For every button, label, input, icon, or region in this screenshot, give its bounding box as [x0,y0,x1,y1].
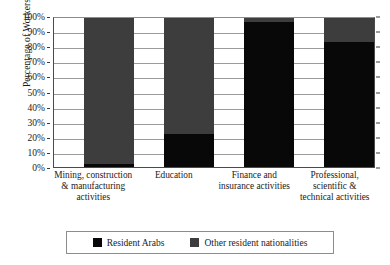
black-swatch-icon [93,238,102,247]
y-tick-label: 10% [28,148,45,158]
y-tick-label: 80% [28,42,45,52]
x-axis-line [54,167,374,168]
right-tick-mark [376,62,380,63]
plot-area [53,17,375,168]
chart-legend: Resident ArabsOther resident nationaliti… [66,231,334,254]
y-tick-label: 100% [23,12,45,22]
legend-item[interactable]: Resident Arabs [93,238,165,248]
y-tick-label: 20% [28,133,45,143]
right-tick-mark [376,32,380,33]
y-tick-mark [47,123,50,124]
bar-segment-other-resident-nationalities[interactable] [84,18,134,164]
stacked-bar[interactable] [164,18,214,168]
gray-swatch-icon [190,238,199,247]
bar-segment-resident-arabs[interactable] [164,134,214,169]
right-tick-mark [376,77,380,78]
y-tick-mark [47,47,50,48]
x-axis-category-labels: Mining, construction & manufacturing act… [53,170,375,204]
y-tick-mark [47,168,50,169]
right-tick-mark [376,47,380,48]
y-tick-mark [47,138,50,139]
bar-slot [294,18,374,168]
y-axis-ticks: 100%90%80%70%60%50%40%30%20%10%0% [8,17,48,168]
bar-segment-other-resident-nationalities[interactable] [324,18,374,42]
stacked-bar[interactable] [324,18,374,168]
right-tick-mark [376,137,380,138]
right-tick-mark [376,17,380,18]
right-tick-mark [376,122,380,123]
right-tick-mark [376,168,380,169]
stacked-bar[interactable] [84,18,134,168]
legend-label: Other resident nationalities [204,238,307,248]
y-tick-mark [47,93,50,94]
y-tick-label: 60% [28,72,45,82]
legend-label: Resident Arabs [107,238,165,248]
x-axis-category-label: Education [134,170,215,204]
y-tick-label: 50% [28,88,45,98]
bar-segment-resident-arabs[interactable] [244,22,294,168]
stacked-bar[interactable] [244,18,294,168]
stacked-bar-chart: Percentage of Workers 100%90%80%70%60%50… [0,0,390,265]
right-tick-mark [376,107,380,108]
bar-group [54,18,374,168]
x-axis-category-label: Finance and insurance activities [214,170,295,204]
y-tick-mark [47,153,50,154]
bar-segment-other-resident-nationalities[interactable] [164,18,214,134]
y-tick-mark [47,62,50,63]
y-tick-label: 0% [32,163,45,173]
bar-slot [134,18,214,168]
right-tick-mark [376,92,380,93]
right-tick-mark [376,152,380,153]
y-tick-label: 90% [28,27,45,37]
bar-slot [54,18,134,168]
bar-slot [214,18,294,168]
y-tick-label: 70% [28,57,45,67]
y-tick-mark [47,77,50,78]
y-tick-mark [47,108,50,109]
y-tick-label: 40% [28,103,45,113]
y-tick-label: 30% [28,118,45,128]
right-axis-ticks [375,17,383,168]
y-tick-mark [47,32,50,33]
bar-segment-resident-arabs[interactable] [324,42,374,168]
legend-item[interactable]: Other resident nationalities [190,238,307,248]
x-axis-category-label: Mining, construction & manufacturing act… [53,170,134,204]
y-tick-mark [47,17,50,18]
x-axis-category-label: Professional, scientific & technical act… [295,170,376,204]
